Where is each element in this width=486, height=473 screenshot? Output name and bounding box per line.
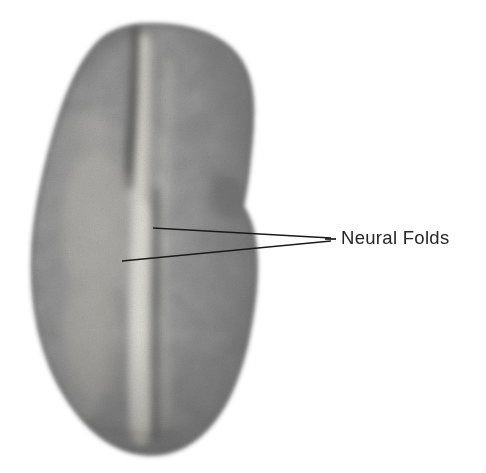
neural-folds-label: Neural Folds (341, 227, 449, 249)
figure-root: Anterior (0, 0, 486, 473)
embryo-photograph (0, 0, 300, 473)
